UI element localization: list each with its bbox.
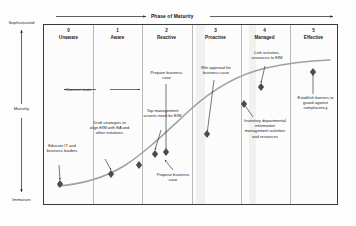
- phase-name-0: Unaware: [44, 35, 93, 40]
- annotation-inventory-departmental: Inventory departmental information manag…: [243, 118, 287, 139]
- y-axis-mid-label: Maturity: [1, 107, 42, 112]
- annotation-propose-business-case: Propose business case: [152, 172, 194, 182]
- chart-axis-title: Phase of Maturity: [151, 14, 194, 19]
- phase-name-5: Effective: [289, 35, 338, 40]
- column-separator-0-1: [93, 25, 94, 204]
- phase-number-3: 3: [191, 28, 240, 33]
- phase-header-0: 0 Unaware: [44, 28, 93, 40]
- annotation-draft-strategies: Draft strategies to align EIM with EA an…: [89, 120, 130, 136]
- phase-header-3: 3 Proactive: [191, 28, 240, 40]
- y-axis-top-label: Sophisticated: [1, 21, 42, 26]
- annotation-win-approval: Win approval for business case: [197, 65, 235, 75]
- shaded-band-managed: [196, 25, 205, 204]
- phase-number-4: 4: [240, 28, 289, 33]
- phase-number-1: 1: [93, 28, 142, 33]
- phase-name-1: Aware: [93, 35, 142, 40]
- phase-name-3: Proactive: [191, 35, 240, 40]
- phase-number-5: 5: [289, 28, 338, 33]
- phase-header-4: 4 Managed: [240, 28, 289, 40]
- phase-name-2: Reactive: [142, 35, 191, 40]
- phase-number-2: 2: [142, 28, 191, 33]
- current-state-label: Current state: [66, 87, 91, 92]
- annotation-establish-barriers: Establish barriers to guard against comp…: [293, 95, 338, 111]
- phase-header-2: 2 Reactive: [142, 28, 191, 40]
- column-separator-3-4: [241, 25, 242, 204]
- maturity-phase-diagram: Phase of Maturity Sophisticated Maturity…: [0, 0, 356, 226]
- phase-header-5: 5 Effective: [289, 28, 338, 40]
- phase-header-1: 1 Aware: [93, 28, 142, 40]
- annotation-prepare-business-case: Prepare business case: [147, 70, 186, 80]
- phase-name-4: Managed: [240, 35, 289, 40]
- y-axis-bottom-label: Immature: [1, 198, 42, 203]
- column-separator-4-5: [290, 25, 291, 204]
- annotation-link-activities: Link activities, resources to EIM: [248, 50, 286, 60]
- phase-number-0: 0: [44, 28, 93, 33]
- annotation-top-management: Top management asserts need for EIM: [140, 108, 185, 118]
- annotation-educate-leaders: Educate IT and business leaders: [41, 143, 83, 153]
